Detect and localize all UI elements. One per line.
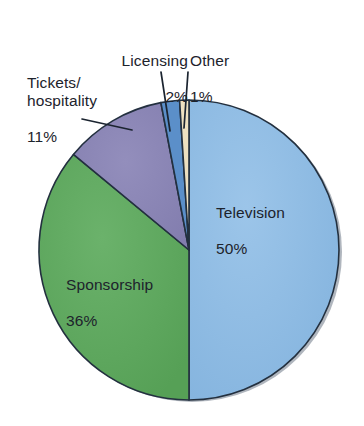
- slice-label-licensing-name: Licensing: [100, 52, 188, 70]
- slice-label-licensing: Licensing 2%: [100, 34, 188, 124]
- slice-label-television-name: Television: [216, 204, 285, 222]
- slice-label-sponsorship: Sponsorship 36%: [66, 258, 153, 348]
- slice-label-tickets-hospitality: Tickets/ hospitality 11%: [27, 56, 97, 164]
- slice-label-sponsorship-name: Sponsorship: [66, 276, 153, 294]
- slice-label-licensing-value: 2%: [100, 88, 188, 106]
- pie-chart: Television 50% Sponsorship 36% Tickets/ …: [0, 0, 364, 426]
- slice-label-sponsorship-value: 36%: [66, 312, 153, 330]
- slice-label-other-name: Other: [190, 52, 252, 70]
- slice-label-television: Television 50%: [216, 186, 285, 276]
- slice-label-tickets-hospitality-value: 11%: [27, 128, 97, 146]
- slice-label-television-value: 50%: [216, 240, 285, 258]
- slice-label-other: Other 1%: [190, 34, 252, 124]
- slice-label-other-value: 1%: [190, 88, 252, 106]
- slice-label-tickets-hospitality-name: Tickets/ hospitality: [27, 74, 97, 110]
